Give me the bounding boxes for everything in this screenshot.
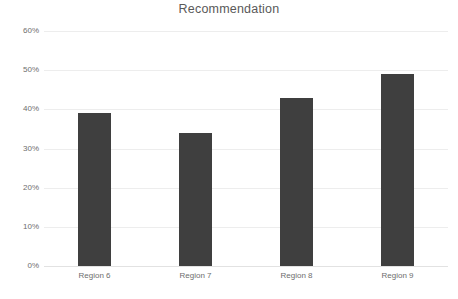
y-axis-tick-label: 20% (9, 184, 39, 192)
gridline (44, 70, 448, 71)
x-axis-tick-label: Region 8 (242, 272, 352, 280)
x-axis-tick-label: Region 6 (40, 272, 150, 280)
bar (381, 74, 414, 266)
gridline (44, 31, 448, 32)
y-axis-tick-label: 0% (9, 262, 39, 270)
bar-chart: Recommendation 0%10%20%30%40%50%60% Regi… (0, 0, 458, 299)
y-axis-tick-label: 50% (9, 66, 39, 74)
y-axis-tick-label: 60% (9, 27, 39, 35)
y-axis-tick-label: 30% (9, 145, 39, 153)
bar (78, 113, 111, 266)
gridline (44, 266, 448, 267)
bar (179, 133, 212, 266)
plot-area (44, 31, 448, 266)
x-axis-tick-label: Region 9 (343, 272, 453, 280)
y-axis-tick-label: 40% (9, 105, 39, 113)
x-axis-tick-label: Region 7 (141, 272, 251, 280)
bar (280, 98, 313, 266)
y-axis-tick-label: 10% (9, 223, 39, 231)
chart-title: Recommendation (0, 2, 458, 16)
